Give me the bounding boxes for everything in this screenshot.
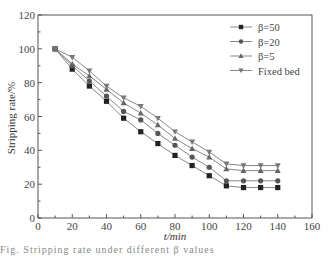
- legend: β=50β=20β=5Fixed bed: [230, 22, 300, 77]
- circle-marker: [275, 178, 280, 183]
- circle-marker: [138, 117, 143, 122]
- y-tick-label: 60: [24, 111, 36, 123]
- square-marker: [207, 173, 212, 178]
- circle-marker: [121, 109, 126, 114]
- legend-label: Fixed bed: [258, 66, 300, 77]
- x-axis-label: t/min: [164, 230, 187, 242]
- y-tick-label: 20: [24, 178, 36, 190]
- series-line: [55, 49, 278, 171]
- circle-marker: [241, 178, 246, 183]
- triangle-up-marker: [155, 122, 161, 127]
- square-marker: [241, 185, 246, 190]
- legend-label: β=20: [258, 37, 280, 48]
- circle-marker: [258, 178, 263, 183]
- triangle-up-marker: [189, 146, 195, 151]
- square-marker: [155, 141, 160, 146]
- legend-item: β=20: [230, 37, 280, 48]
- y-axis-label: Stripping rate/%: [5, 82, 17, 154]
- triangle-down-marker: [138, 104, 144, 109]
- y-tick-label: 80: [24, 77, 36, 89]
- circle-marker: [224, 178, 229, 183]
- circle-marker: [172, 143, 177, 148]
- x-tick-label: 20: [67, 220, 79, 232]
- square-marker: [190, 163, 195, 168]
- legend-item: Fixed bed: [230, 66, 300, 77]
- square-marker: [275, 185, 280, 190]
- legend-label: β=50: [258, 22, 280, 33]
- triangle-down-marker: [121, 96, 127, 101]
- series--5: [52, 46, 281, 173]
- square-marker: [172, 153, 177, 158]
- square-marker: [104, 99, 109, 104]
- square-marker: [224, 183, 229, 188]
- triangle-up-marker: [138, 110, 144, 115]
- x-tick-label: 160: [304, 220, 321, 232]
- circle-marker: [207, 165, 212, 170]
- square-marker: [239, 25, 243, 29]
- square-marker: [258, 185, 263, 190]
- triangle-down-marker: [189, 140, 195, 145]
- x-tick-label: 0: [35, 220, 41, 232]
- circle-marker: [87, 78, 92, 83]
- circle-marker: [190, 155, 195, 160]
- circle-marker: [155, 131, 160, 136]
- square-marker: [138, 129, 143, 134]
- series-fixed-bed: [52, 47, 281, 169]
- series--20: [53, 46, 281, 183]
- series--50: [53, 46, 281, 190]
- x-tick-label: 140: [270, 220, 287, 232]
- y-tick-label: 100: [19, 43, 36, 55]
- square-marker: [87, 83, 92, 88]
- x-tick-label: 60: [135, 220, 147, 232]
- figure-caption-fragment: Fig. Stripping rate under different β va…: [0, 244, 329, 256]
- legend-item: β=50: [230, 22, 280, 33]
- x-tick-label: 40: [101, 220, 113, 232]
- y-tick-label: 40: [24, 144, 36, 156]
- series-line: [55, 49, 278, 166]
- triangle-down-marker: [172, 129, 178, 134]
- triangle-down-marker: [206, 150, 212, 155]
- y-tick-label: 120: [19, 9, 36, 21]
- legend-item: β=5: [230, 51, 275, 62]
- circle-marker: [104, 94, 109, 99]
- square-marker: [121, 116, 126, 121]
- series-layer: [52, 46, 281, 190]
- circle-marker: [239, 39, 243, 43]
- x-tick-label: 100: [201, 220, 218, 232]
- x-tick-label: 120: [235, 220, 252, 232]
- legend-label: β=5: [258, 51, 275, 62]
